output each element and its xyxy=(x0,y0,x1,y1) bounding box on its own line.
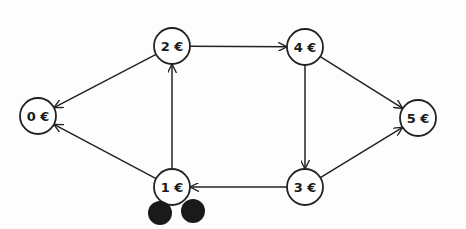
node-n4: 4 € xyxy=(287,29,323,65)
edges-layer xyxy=(54,46,403,187)
node-label: 3 € xyxy=(294,180,317,195)
node-n3: 3 € xyxy=(287,169,323,205)
token-dot-icon xyxy=(181,199,205,223)
graph-canvas: 0 €1 €2 €3 €4 €5 € xyxy=(0,0,466,229)
node-n5: 5 € xyxy=(400,100,436,136)
node-label: 1 € xyxy=(161,180,184,195)
node-label: 4 € xyxy=(294,40,317,55)
node-label: 5 € xyxy=(407,111,430,126)
edge-n2-n0-arrow xyxy=(54,54,156,107)
node-label: 2 € xyxy=(161,39,184,54)
node-n1: 1 € xyxy=(154,169,190,205)
edge-n3-n5-arrow xyxy=(320,127,402,177)
node-n0: 0 € xyxy=(20,98,56,134)
token-dot-icon xyxy=(148,201,172,225)
node-label: 0 € xyxy=(27,109,50,124)
edge-n1-n0-arrow xyxy=(54,124,156,178)
edge-n4-n5-arrow xyxy=(320,57,403,109)
node-n2: 2 € xyxy=(154,28,190,64)
edge-n2-n4-arrow xyxy=(190,46,287,47)
graph-diagram: 0 €1 €2 €3 €4 €5 € xyxy=(0,0,466,229)
nodes-layer: 0 €1 €2 €3 €4 €5 € xyxy=(20,28,436,205)
